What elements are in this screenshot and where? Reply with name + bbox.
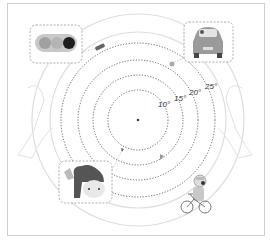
center-dot (137, 119, 139, 121)
small-person-icon (121, 148, 124, 152)
ring-label-25: 25° (204, 82, 218, 91)
small-vehicle-icon (95, 43, 106, 51)
ring-label-20: 20° (188, 88, 202, 97)
traffic-light-icon (35, 34, 77, 52)
car-callout (184, 22, 233, 62)
leader-lines (82, 48, 184, 170)
girl-callout (59, 161, 112, 203)
small-sign-icon (170, 62, 175, 67)
ring-label-15: 15° (174, 94, 187, 103)
small-flag-icon (160, 154, 164, 160)
viewing-angle-diagram: 10° 15° 20° 25° (0, 0, 270, 242)
car-icon (193, 27, 223, 58)
traffic-light-callout (30, 25, 82, 63)
ring-label-10: 10° (158, 100, 171, 109)
